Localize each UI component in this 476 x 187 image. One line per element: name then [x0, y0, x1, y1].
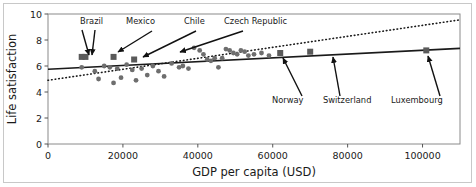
data-point: [212, 56, 217, 61]
x-axis-title: GDP per capita (USD): [192, 165, 316, 179]
annotation-arrow-mexico: [118, 31, 152, 52]
annotation-arrow-brazil: [92, 30, 95, 55]
data-point: [119, 75, 124, 80]
data-point-highlight: [82, 54, 88, 60]
data-point-highlight: [277, 50, 283, 56]
y-tick-label: 2: [36, 113, 42, 124]
secondary-fit: [48, 20, 460, 80]
annotation-arrow-norway: [283, 58, 302, 96]
data-point: [134, 78, 139, 83]
data-point: [267, 53, 272, 58]
data-point: [235, 52, 240, 57]
y-tick-label: 6: [36, 61, 42, 72]
data-point: [201, 52, 206, 57]
x-tick-label: 60000: [258, 150, 288, 161]
data-point: [79, 65, 84, 70]
data-point: [169, 61, 174, 66]
data-point: [115, 66, 120, 71]
x-tick-label: 40000: [183, 150, 213, 161]
annotation-label-brazil: Brazil: [80, 16, 103, 26]
data-point: [130, 68, 135, 73]
x-tick-label: 80000: [333, 150, 363, 161]
annotation-label-switzerland: Switzerland: [323, 95, 371, 105]
data-point: [96, 77, 101, 82]
annotation-arrow-switzerland: [333, 57, 340, 96]
data-point-highlight: [307, 49, 313, 55]
y-tick-label: 10: [30, 9, 42, 20]
data-point: [111, 81, 116, 86]
y-axis-title: Life satisfaction: [5, 34, 19, 125]
data-point: [145, 73, 150, 78]
data-point: [156, 69, 161, 74]
data-point: [242, 49, 247, 54]
annotation-label-norway: Norway: [272, 95, 304, 105]
y-tick-label: 8: [36, 35, 42, 46]
scatter-chart: 0200004000060000800001000000246810GDP pe…: [0, 0, 476, 187]
data-point: [180, 64, 185, 69]
data-point: [186, 66, 191, 71]
data-point: [246, 53, 251, 58]
data-point-highlight: [111, 54, 117, 60]
data-point-highlight: [131, 57, 137, 63]
data-point: [259, 51, 264, 56]
figure-root: 0200004000060000800001000000246810GDP pe…: [0, 0, 476, 187]
data-point: [102, 64, 107, 69]
annotation-arrow-chile: [143, 31, 196, 57]
annotation-arrow-brazil: [82, 30, 89, 55]
plot-frame: [48, 14, 460, 144]
y-tick-label: 4: [36, 87, 42, 98]
data-point: [124, 62, 129, 67]
x-tick-label: 20000: [108, 150, 138, 161]
annotation-label-czech-republic: Czech Republic: [224, 16, 288, 26]
x-tick-label: 100000: [404, 150, 440, 161]
annotation-label-chile: Chile: [184, 16, 205, 26]
annotation-arrow-luxembourg: [428, 56, 440, 96]
annotation-label-luxembourg: Luxembourg: [391, 95, 443, 105]
data-point: [150, 64, 155, 69]
data-point: [162, 74, 167, 79]
data-point: [92, 69, 97, 74]
data-point: [197, 48, 202, 53]
data-point-highlight: [423, 47, 429, 53]
data-point: [220, 56, 225, 61]
annotation-label-mexico: Mexico: [126, 16, 155, 26]
data-point: [216, 65, 221, 70]
data-point: [139, 66, 144, 71]
y-tick-label: 0: [36, 139, 42, 150]
data-point: [252, 52, 257, 57]
x-tick-label: 0: [45, 150, 51, 161]
data-point: [107, 65, 112, 70]
